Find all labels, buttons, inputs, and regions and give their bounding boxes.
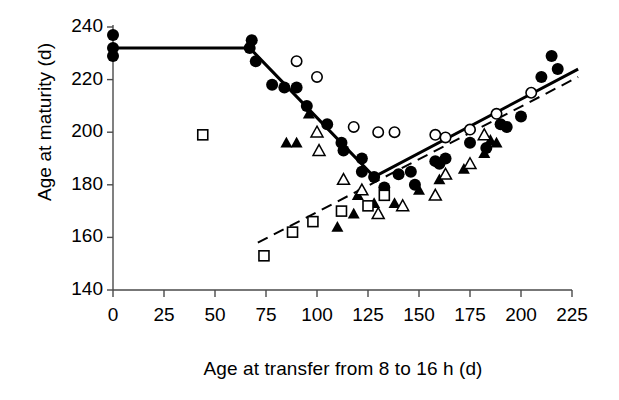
- point-open-circle: [373, 127, 383, 137]
- point-open-triangle: [338, 174, 350, 185]
- point-open-triangle: [372, 208, 384, 219]
- point-filled-circle: [440, 153, 452, 165]
- point-filled-circle: [338, 145, 350, 157]
- point-open-circle: [389, 127, 399, 137]
- point-filled-circle: [291, 81, 303, 93]
- y-tick-label: 200: [51, 120, 103, 142]
- point-filled-circle: [356, 153, 368, 165]
- point-filled-circle: [246, 34, 258, 46]
- data-marker-layer: [107, 29, 564, 261]
- point-filled-circle: [552, 63, 564, 75]
- point-open-circle: [312, 72, 322, 82]
- point-open-square: [259, 251, 269, 261]
- point-open-triangle: [429, 189, 441, 200]
- point-open-triangle: [311, 126, 323, 137]
- point-filled-circle: [301, 100, 313, 112]
- point-open-square: [288, 227, 298, 237]
- solid-fitted-line: [113, 48, 578, 177]
- point-open-circle: [491, 109, 501, 119]
- point-filled-circle: [356, 166, 368, 178]
- chart-figure: Age at maturity (d) Age at transfer from…: [0, 0, 619, 400]
- point-open-triangle: [464, 158, 476, 169]
- point-filled-triangle: [331, 221, 343, 232]
- point-filled-circle: [405, 166, 417, 178]
- plot-area: [0, 0, 619, 400]
- point-filled-circle: [266, 79, 278, 91]
- y-tick-label: 240: [51, 15, 103, 37]
- x-axis-title: Age at transfer from 8 to 16 h (d): [113, 358, 573, 380]
- point-filled-triangle: [291, 137, 303, 148]
- x-tick-label: 225: [542, 304, 602, 326]
- point-filled-circle: [464, 137, 476, 149]
- point-filled-circle: [393, 168, 405, 180]
- point-filled-triangle: [348, 208, 360, 219]
- axis-layer: [107, 25, 572, 297]
- point-filled-circle: [368, 171, 380, 183]
- point-open-triangle: [313, 145, 325, 156]
- point-open-triangle: [356, 184, 368, 195]
- point-open-triangle: [440, 168, 452, 179]
- point-filled-circle: [546, 50, 558, 62]
- point-filled-circle: [250, 55, 262, 67]
- point-open-square: [198, 130, 208, 140]
- point-open-triangle: [478, 129, 490, 140]
- point-filled-triangle: [280, 137, 292, 148]
- y-tick-label: 220: [51, 68, 103, 90]
- y-tick-label: 160: [51, 225, 103, 247]
- point-filled-circle: [515, 110, 527, 122]
- point-open-circle: [465, 124, 475, 134]
- point-open-square: [379, 190, 389, 200]
- point-filled-circle: [535, 71, 547, 83]
- point-open-square: [336, 206, 346, 216]
- point-filled-circle: [321, 118, 333, 130]
- point-open-circle: [526, 88, 536, 98]
- point-open-circle: [430, 130, 440, 140]
- point-open-circle: [291, 56, 301, 66]
- point-filled-circle: [107, 42, 119, 54]
- y-tick-label: 180: [51, 173, 103, 195]
- y-tick-label: 140: [51, 278, 103, 300]
- point-open-square: [363, 201, 373, 211]
- point-filled-circle: [107, 29, 119, 41]
- point-filled-circle: [278, 81, 290, 93]
- point-open-circle: [349, 122, 359, 132]
- point-filled-circle: [501, 121, 513, 133]
- point-open-square: [308, 217, 318, 227]
- point-open-circle: [440, 132, 450, 142]
